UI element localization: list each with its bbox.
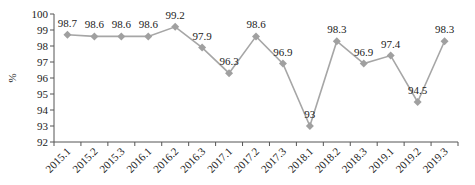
data-point-marker bbox=[387, 52, 395, 60]
x-tick-label: 2018.2 bbox=[312, 145, 342, 175]
data-point-marker bbox=[441, 37, 449, 45]
data-label: 94.5 bbox=[408, 84, 428, 96]
y-tick-label: 94 bbox=[37, 104, 49, 116]
x-axis: 2015.12015.22015.32016.12016.22016.32017… bbox=[43, 142, 458, 175]
x-tick-label: 2016.2 bbox=[151, 145, 181, 175]
data-label: 98.3 bbox=[327, 23, 347, 35]
x-tick-label: 2016.1 bbox=[124, 145, 154, 175]
data-label: 98.3 bbox=[435, 23, 455, 35]
data-label: 96.9 bbox=[354, 46, 374, 58]
line-chart: 9293949596979899100 2015.12015.22015.320… bbox=[0, 0, 475, 185]
y-axis-title: % bbox=[6, 73, 18, 82]
y-axis: 9293949596979899100 bbox=[32, 8, 55, 148]
y-tick-label: 95 bbox=[37, 88, 49, 100]
x-tick-label: 2015.3 bbox=[97, 145, 127, 175]
data-point-marker bbox=[306, 122, 314, 130]
x-tick-label: 2019.3 bbox=[420, 145, 450, 175]
data-label: 96.3 bbox=[219, 55, 239, 67]
data-label: 98.6 bbox=[112, 18, 132, 30]
data-label: 93 bbox=[304, 108, 316, 120]
x-tick-label: 2017.3 bbox=[258, 145, 288, 175]
data-series: 98.798.698.698.699.297.996.398.696.99398… bbox=[58, 9, 455, 130]
data-point-marker bbox=[414, 98, 422, 106]
x-tick-label: 2016.3 bbox=[178, 145, 208, 175]
x-tick-label: 2018.3 bbox=[339, 145, 369, 175]
y-tick-label: 100 bbox=[32, 8, 49, 20]
x-tick-label: 2017.2 bbox=[232, 145, 262, 175]
x-tick-label: 2019.1 bbox=[366, 145, 396, 175]
data-label: 99.2 bbox=[166, 9, 185, 21]
x-tick-label: 2015.2 bbox=[70, 145, 100, 175]
chart-canvas: 9293949596979899100 2015.12015.22015.320… bbox=[0, 0, 475, 185]
data-label: 98.7 bbox=[58, 17, 78, 29]
y-tick-label: 97 bbox=[37, 56, 49, 68]
data-point-marker bbox=[90, 32, 98, 40]
y-tick-label: 96 bbox=[37, 72, 49, 84]
data-label: 97.9 bbox=[193, 30, 213, 42]
data-label: 97.4 bbox=[381, 38, 401, 50]
data-label: 98.6 bbox=[139, 18, 159, 30]
data-point-marker bbox=[63, 31, 71, 39]
x-tick-label: 2019.2 bbox=[393, 145, 423, 175]
data-label: 98.6 bbox=[246, 18, 266, 30]
y-tick-label: 92 bbox=[37, 136, 48, 148]
y-tick-label: 98 bbox=[37, 40, 49, 52]
x-tick-label: 2015.1 bbox=[43, 145, 73, 175]
data-point-marker bbox=[117, 32, 125, 40]
y-tick-label: 99 bbox=[37, 24, 49, 36]
data-point-marker bbox=[144, 32, 152, 40]
x-tick-label: 2018.1 bbox=[285, 145, 315, 175]
y-tick-label: 93 bbox=[37, 120, 49, 132]
data-label: 98.6 bbox=[85, 18, 105, 30]
x-tick-label: 2017.1 bbox=[205, 145, 235, 175]
data-label: 96.9 bbox=[273, 46, 293, 58]
